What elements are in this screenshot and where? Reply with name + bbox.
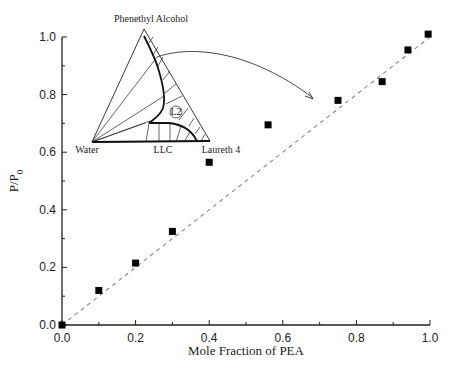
- data-point-square: [404, 46, 411, 53]
- x-tick-label: 0.0: [54, 331, 71, 345]
- y-tick-label: 0.0: [39, 318, 56, 332]
- data-point-square: [265, 121, 272, 128]
- y-tick-label: 0.2: [39, 260, 56, 274]
- x-tick-label: 0.8: [348, 331, 365, 345]
- llc-divider: [176, 126, 181, 142]
- x-tick-label: 1.0: [422, 331, 439, 345]
- y-tick-label: 0.8: [39, 88, 56, 102]
- ternary-top-label: Phenethyl Alcohol: [114, 13, 188, 24]
- tie-line: [92, 57, 157, 142]
- y-tick-label: 1.0: [39, 30, 56, 44]
- ternary-llc-label: LLC: [154, 144, 173, 155]
- l2-label: L2: [170, 106, 181, 117]
- y-tick-label: 0.4: [39, 203, 56, 217]
- data-point-square: [95, 287, 102, 294]
- y-tick-label: 0.6: [39, 145, 56, 159]
- ternary-right-label: Laureth 4: [202, 144, 241, 155]
- y-ticks: 0.00.20.40.60.81.0: [39, 30, 67, 332]
- data-point-square: [169, 228, 176, 235]
- l2-boundary: [144, 36, 164, 123]
- y-axis-title: P/P0: [6, 169, 25, 192]
- ideal-dashed-line: [62, 37, 430, 325]
- data-point-square: [379, 78, 386, 85]
- data-point-square: [335, 97, 342, 104]
- data-point-square: [132, 260, 139, 267]
- ternary-inset: L2 Phenethyl Alcohol Water LLC Laureth 4: [75, 13, 240, 155]
- x-ticks: 0.00.20.40.60.81.0: [54, 320, 439, 345]
- data-point-square: [59, 322, 66, 329]
- llc-base: [92, 141, 210, 142]
- tie-line: [92, 123, 145, 142]
- ternary-triangle: [92, 29, 210, 142]
- x-tick-label: 0.2: [127, 331, 144, 345]
- llc-divider: [146, 123, 149, 142]
- ternary-left-label: Water: [75, 144, 99, 155]
- x-axis-title: Mole Fraction of PEA: [188, 343, 305, 358]
- data-point-square: [206, 159, 213, 166]
- scatter-chart: 0.00.20.40.60.81.0 0.00.20.40.60.81.0 Mo…: [0, 0, 449, 376]
- data-point-square: [425, 31, 432, 38]
